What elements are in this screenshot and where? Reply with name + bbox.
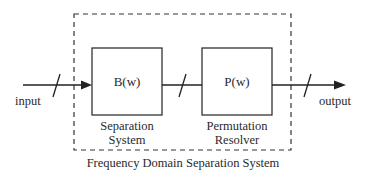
separation-label-line1: Separation xyxy=(100,119,153,133)
permutation-label-line2: Resolver xyxy=(215,133,259,147)
output-label: output xyxy=(319,94,351,108)
separation-label-line2: System xyxy=(109,133,146,147)
output-arrowhead-icon xyxy=(334,81,346,90)
diagram-canvas xyxy=(0,0,373,172)
diagram-caption: Frequency Domain Separation System xyxy=(87,156,280,170)
permutation-symbol: P(w) xyxy=(224,75,249,89)
input-arrowhead-icon xyxy=(81,81,92,90)
permutation-label-line1: Permutation xyxy=(206,119,267,133)
input-label: input xyxy=(15,94,41,108)
separation-symbol: B(w) xyxy=(114,75,141,89)
